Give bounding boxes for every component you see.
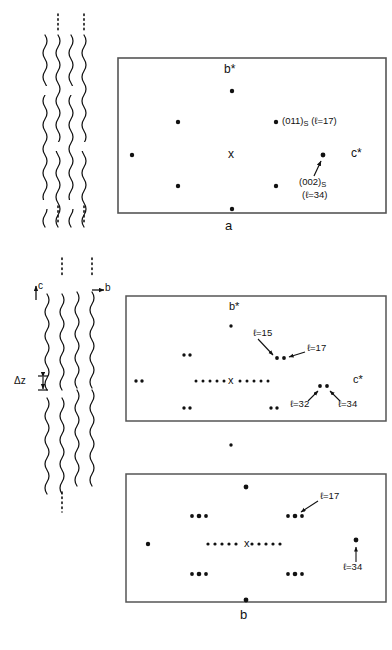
- diffraction-spot: [257, 542, 260, 545]
- diffraction-spot: [176, 184, 180, 188]
- axis-label-c-star: c*: [353, 374, 363, 385]
- delta-z-label: Δz: [14, 376, 26, 386]
- diffraction-spot: [244, 598, 249, 603]
- diffraction-spot: [190, 572, 194, 576]
- diffraction-spot: [300, 572, 304, 576]
- diffraction-spot: [264, 542, 267, 545]
- reflection-002-subscript: S: [321, 180, 326, 189]
- origin-marker: x: [244, 538, 250, 549]
- diffraction-spot: [239, 380, 242, 383]
- diffraction-spot: [267, 380, 270, 383]
- wavy-chain: [56, 35, 60, 227]
- diffraction-spot: [140, 379, 143, 382]
- axis-label-b: b: [105, 283, 111, 293]
- diffraction-spot: [230, 207, 234, 211]
- diffraction-spot: [202, 380, 205, 383]
- diffraction-spot: [223, 380, 226, 383]
- diffraction-spot: [206, 542, 209, 545]
- diffraction-spot: [246, 380, 249, 383]
- diffraction-spot: [269, 406, 272, 409]
- diffraction-spot: [230, 89, 234, 93]
- reflection-011-index: (011): [282, 115, 303, 126]
- diffraction-spot: [244, 485, 249, 490]
- reflection-002-index: (002): [299, 176, 321, 187]
- l17-label: ℓ=17: [307, 343, 326, 353]
- l17-label: ℓ=17: [320, 491, 339, 501]
- axis-label-b-star: b*: [224, 63, 235, 75]
- diffraction-box: [118, 58, 386, 213]
- l34-label: ℓ=34: [343, 562, 362, 572]
- diffraction-spot: [274, 184, 278, 188]
- diffraction-spot: [229, 443, 232, 446]
- wavy-chain: [60, 294, 64, 390]
- diffraction-spot: [282, 356, 286, 360]
- reflection-002-l: (ℓ=34): [302, 190, 328, 200]
- diffraction-spot: [197, 514, 202, 519]
- diffraction-spot: [188, 353, 191, 356]
- l15-label: ℓ=15: [253, 328, 272, 338]
- axis-label-b-star: b*: [229, 301, 239, 312]
- wavy-chain: [82, 35, 86, 227]
- diffraction-spot: [134, 379, 137, 382]
- l34-label: ℓ=34: [338, 399, 357, 409]
- diffraction-spot: [216, 380, 219, 383]
- wavy-chain-group: [43, 35, 86, 227]
- diffraction-spot: [197, 572, 202, 577]
- reflection-011-subscript: S: [303, 119, 308, 128]
- diffraction-spot: [182, 406, 185, 409]
- diffraction-spot: [293, 514, 298, 519]
- diffraction-spot: [274, 120, 278, 124]
- diffraction-spot: [146, 542, 150, 546]
- panel-b-lower-diffraction: [126, 474, 386, 602]
- diffraction-spot: [234, 542, 237, 545]
- wavy-chain: [43, 35, 47, 227]
- panel-b-upper-diffraction: [126, 296, 386, 447]
- diffraction-spot: [204, 572, 208, 576]
- diffraction-spot: [229, 324, 232, 327]
- diffraction-spot: [286, 572, 290, 576]
- diffraction-spot: [325, 384, 329, 388]
- panel-a-chain-diagram: [40, 14, 91, 227]
- axis-label-c: c: [38, 281, 43, 291]
- wavy-chain: [45, 398, 49, 494]
- diffraction-spot: [130, 153, 134, 157]
- diffraction-spot: [213, 542, 216, 545]
- wavy-chain-group-upper: [45, 292, 94, 390]
- diffraction-spot: [188, 406, 191, 409]
- figure-root: [0, 0, 392, 650]
- reflection-002-label: (002)S: [299, 177, 326, 189]
- diffraction-spot: [176, 120, 180, 124]
- diffraction-spot: [260, 380, 263, 383]
- axis-label-c-star: c*: [351, 147, 362, 159]
- diffraction-spot: [278, 542, 281, 545]
- panel-b-chain-diagram: [36, 258, 104, 512]
- panel-a-diffraction: [118, 58, 386, 213]
- wavy-chain: [90, 390, 94, 486]
- diffraction-box: [126, 474, 386, 602]
- diffraction-spot: [300, 514, 304, 518]
- diffraction-spot: [250, 542, 253, 545]
- diffraction-spot: [275, 406, 278, 409]
- diffraction-spot: [227, 542, 230, 545]
- l32-label: ℓ=32: [290, 399, 309, 409]
- panel-letter-a: a: [225, 219, 232, 232]
- reflection-011-label: (011)S (ℓ=17): [282, 116, 337, 128]
- diffraction-spot: [321, 153, 326, 158]
- wavy-chain-group-lower: [45, 390, 94, 494]
- chain-dotted-extension: [58, 14, 84, 32]
- origin-marker: x: [228, 148, 234, 160]
- wavy-chain: [69, 35, 73, 227]
- wavy-chain: [90, 292, 94, 388]
- diffraction-spot: [286, 514, 290, 518]
- diffraction-spot: [209, 380, 212, 383]
- diffraction-spot: [253, 380, 256, 383]
- panel-letter-b: b: [240, 608, 247, 621]
- diffraction-spot: [195, 380, 198, 383]
- diffraction-spot: [182, 353, 185, 356]
- origin-marker: x: [228, 375, 234, 386]
- chain-break-mask: [40, 86, 91, 209]
- wavy-chain: [75, 292, 79, 388]
- diffraction-spot: [275, 356, 279, 360]
- diffraction-spot: [354, 538, 359, 543]
- reflection-011-l: (ℓ=17): [311, 115, 337, 126]
